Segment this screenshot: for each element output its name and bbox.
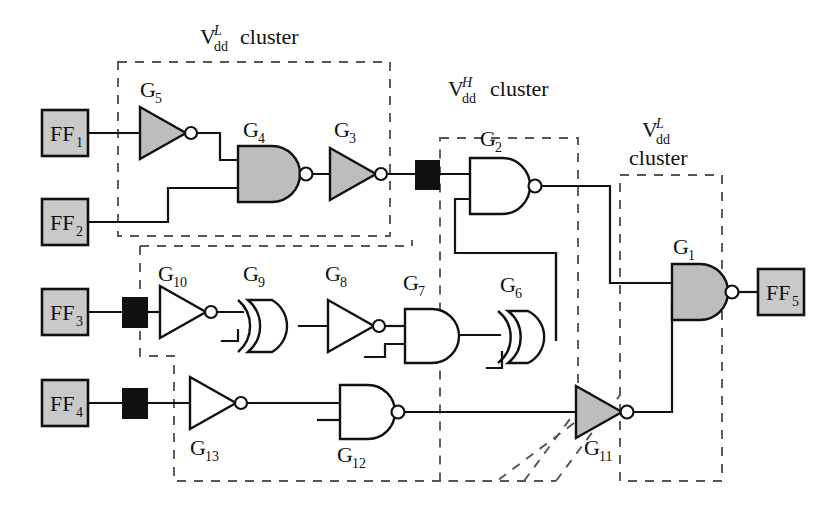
gate-g13[interactable] — [190, 377, 247, 429]
ff4-sub: 4 — [76, 405, 83, 420]
gate-g9[interactable] — [238, 300, 287, 352]
g5-main: G — [140, 77, 156, 102]
gate-label-g6: G 6 — [500, 272, 522, 301]
gate-label-g4: G 4 — [243, 117, 265, 146]
gate-label-g11: G 11 — [584, 435, 612, 464]
cluster-boundary-lower-top — [140, 240, 412, 246]
gate-label-g1: G 1 — [673, 234, 695, 263]
gate-g4[interactable] — [238, 146, 313, 202]
gate-label-g9: G 9 — [243, 261, 265, 290]
gate-g10[interactable] — [160, 286, 217, 338]
g7-sub: 7 — [418, 284, 425, 299]
cluster0-sup: L — [213, 23, 222, 38]
g8-sub: 8 — [340, 275, 347, 290]
ff3-label: FF — [50, 300, 74, 325]
flipflop-ff5[interactable]: FF 5 — [758, 269, 804, 315]
g6-main: G — [500, 272, 516, 297]
wire-g11-g1 — [629, 303, 672, 412]
flipflop-ff1[interactable]: FF 1 — [42, 110, 88, 156]
wire-g9-in2-stub — [222, 330, 238, 341]
gate-label-g13: G 13 — [190, 435, 219, 464]
ff2-sub: 2 — [76, 224, 83, 239]
cluster-label-vddl-right: V dd L cluster — [629, 116, 688, 170]
wire-g2-g1 — [537, 186, 672, 283]
g9-main: G — [243, 261, 259, 286]
circuit-svg: .wire { stroke:#111111; stroke-width:2.2… — [0, 0, 822, 512]
gate-label-g8: G 8 — [325, 261, 347, 290]
g4-main: G — [243, 117, 259, 142]
gate-label-g12: G 12 — [337, 442, 366, 471]
g12-sub: 12 — [352, 456, 366, 471]
level-shifter-ff4-out[interactable] — [122, 388, 148, 419]
g8-main: G — [325, 261, 341, 286]
g12-main: G — [337, 442, 353, 467]
flipflop-ff3[interactable]: FF 3 — [42, 289, 88, 335]
cluster1-tail: cluster — [490, 76, 549, 101]
ff5-sub: 5 — [792, 294, 799, 309]
g3-sub: 3 — [349, 131, 356, 146]
gate-g6[interactable] — [498, 311, 544, 363]
g11-main: G — [584, 435, 600, 460]
gate-g7[interactable] — [405, 309, 459, 363]
gate-g12[interactable] — [340, 385, 405, 439]
cluster1-sub: dd — [462, 91, 476, 106]
cluster0-sub: dd — [214, 39, 228, 54]
g6-sub: 6 — [515, 286, 522, 301]
gate-label-g2: G 2 — [480, 126, 502, 155]
gate-label-g10: G 10 — [158, 261, 187, 290]
wire-g5-g4 — [193, 133, 238, 160]
cluster1-sup: H — [461, 75, 473, 90]
g3-main: G — [334, 117, 350, 142]
g1-main: G — [673, 234, 689, 259]
ff3-sub: 3 — [76, 314, 83, 329]
g9-sub: 9 — [258, 275, 265, 290]
g7-main: G — [403, 270, 419, 295]
g5-sub: 5 — [155, 91, 162, 106]
g11-sub: 11 — [599, 449, 612, 464]
cluster-label-vddl-top: V dd L cluster — [200, 23, 299, 54]
gate-g11[interactable] — [576, 386, 634, 438]
g10-sub: 10 — [173, 275, 187, 290]
g2-main: G — [480, 126, 496, 151]
cluster2-sup: L — [655, 116, 664, 131]
gate-label-g7: G 7 — [403, 270, 425, 299]
cluster-label-vddh: V dd H cluster — [448, 75, 549, 106]
circuit-diagram-figure: .wire { stroke:#111111; stroke-width:2.2… — [0, 0, 822, 512]
level-shifter-g3-out[interactable] — [415, 160, 440, 190]
gate-g3[interactable] — [330, 148, 387, 200]
gate-g5[interactable] — [140, 107, 197, 159]
ff2-label: FF — [50, 210, 74, 235]
ff5-label: FF — [766, 280, 790, 305]
g10-main: G — [158, 261, 174, 286]
wire-g7-in2-stub — [365, 344, 405, 357]
gate-g2[interactable] — [470, 158, 542, 214]
gate-g8[interactable] — [328, 300, 385, 352]
gate-label-g3: G 3 — [334, 117, 356, 146]
ff1-label: FF — [50, 121, 74, 146]
g2-sub: 2 — [495, 140, 502, 155]
level-shifter-ff3-out[interactable] — [122, 297, 148, 328]
ff1-sub: 1 — [76, 135, 83, 150]
g1-sub: 1 — [688, 248, 695, 263]
flipflop-ff2[interactable]: FF 2 — [42, 199, 88, 245]
gate-label-g5: G 5 — [140, 77, 162, 106]
g13-main: G — [190, 435, 206, 460]
cluster2-tail: cluster — [629, 145, 688, 170]
ff4-label: FF — [50, 391, 74, 416]
g4-sub: 4 — [258, 131, 265, 146]
wire-ff2-g4 — [88, 188, 238, 222]
g13-sub: 13 — [205, 449, 219, 464]
gate-g1[interactable] — [672, 264, 739, 320]
cluster0-tail: cluster — [240, 24, 299, 49]
flipflop-ff4[interactable]: FF 4 — [42, 380, 88, 426]
